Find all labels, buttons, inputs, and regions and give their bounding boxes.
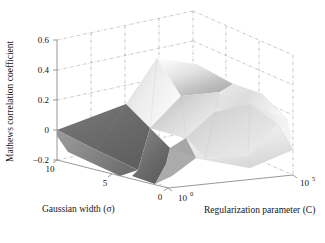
x-tick-2: 0 — [158, 192, 163, 202]
z-tick-0: 0.6 — [38, 35, 50, 45]
z-tick-2: 0.2 — [38, 95, 49, 105]
z-axis-title: Mathews correlation coefficient — [5, 40, 15, 162]
y-tick-0: 10 — [178, 193, 188, 203]
y-tick-1: 10 — [300, 178, 310, 188]
y-tick-1-exponent: 5 — [312, 175, 315, 182]
surface-mesh — [57, 58, 293, 184]
z-tick-labels: 0.6 0.4 0.2 0 −0.2 — [33, 35, 50, 165]
y-axis-line — [168, 175, 293, 188]
y-tick-marks — [168, 175, 297, 191]
y-axis-title: Regularization parameter (C) — [204, 205, 315, 216]
z-tick-1: 0.4 — [38, 65, 50, 75]
z-tick-3: 0 — [45, 125, 50, 135]
z-tick-marks — [53, 40, 57, 160]
y-tick-0-exponent: 0 — [190, 190, 193, 197]
plot-canvas: 0.6 0.4 0.2 0 −0.2 10 5 0 10 0 10 5 Math… — [0, 0, 325, 243]
y-tick-labels: 10 0 10 5 — [178, 175, 315, 203]
figure-3d-surface-plot: 0.6 0.4 0.2 0 −0.2 10 5 0 10 0 10 5 Math… — [0, 0, 325, 243]
x-axis-title: Gaussian width (σ) — [42, 204, 115, 215]
x-tick-0: 10 — [46, 164, 56, 174]
x-tick-1: 5 — [103, 178, 108, 188]
